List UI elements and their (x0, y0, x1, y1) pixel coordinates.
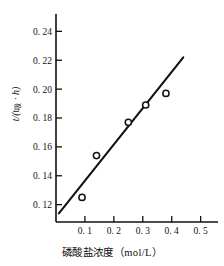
y-tick-label: 0. 20 (33, 85, 52, 95)
data-point (143, 102, 149, 108)
data-point (93, 152, 99, 158)
y-tick-label: 0. 24 (33, 27, 52, 37)
data-point-markers (79, 90, 169, 200)
data-point (163, 90, 169, 96)
data-point (79, 194, 85, 200)
x-tick-label: 0. 2 (107, 226, 122, 236)
x-axis-ticks (85, 216, 201, 222)
y-axis-tick-labels: 0. 120. 140. 160. 180. 200. 220. 24 (33, 27, 52, 210)
data-point (125, 119, 131, 125)
y-axis-ticks (56, 31, 62, 204)
x-axis-tick-labels: 0. 10. 20. 30. 40. 5 (78, 226, 208, 236)
y-axis-title: t/(t吸 · h) (10, 49, 22, 159)
x-tick-label: 0. 1 (78, 226, 93, 236)
scatter-plot: 0. 120. 140. 160. 180. 200. 220. 24 0. 1… (0, 0, 224, 266)
trend-line (59, 57, 183, 213)
x-tick-label: 0. 5 (194, 226, 209, 236)
y-tick-label: 0. 14 (33, 171, 52, 181)
x-tick-label: 0. 4 (165, 226, 180, 236)
x-tick-label: 0. 3 (136, 226, 151, 236)
y-axis-title-text: t/(t吸 · h) (10, 87, 21, 122)
chart-figure: 0. 120. 140. 160. 180. 200. 220. 24 0. 1… (0, 0, 224, 266)
x-axis-title: 磷酸盐浓度（mol/L） (0, 244, 224, 259)
y-tick-label: 0. 12 (33, 200, 52, 210)
y-tick-label: 0. 18 (33, 113, 52, 123)
y-tick-label: 0. 16 (33, 142, 52, 152)
y-tick-label: 0. 22 (33, 56, 52, 66)
